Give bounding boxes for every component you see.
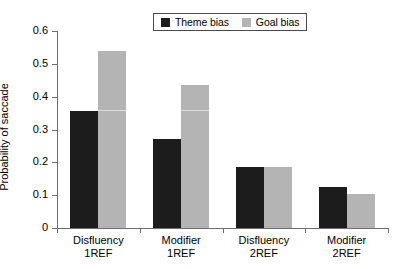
y-axis-tick-label: 0 — [42, 221, 48, 234]
y-axis-tick-mark — [52, 195, 57, 196]
y-axis-tick-mark — [52, 130, 57, 131]
y-axis-tick: 0.5 — [52, 64, 57, 65]
x-axis-category-label-line2: 2REF — [305, 247, 388, 260]
x-axis-category-label: Disfluency2REF — [223, 234, 306, 260]
bar-theme-bias — [153, 139, 181, 228]
bar-theme-bias — [236, 167, 264, 228]
bar-scan-artifact — [98, 110, 126, 111]
x-axis-tick-mark — [305, 228, 306, 233]
y-axis-tick-mark — [52, 162, 57, 163]
x-axis-category-label-line2: 1REF — [57, 247, 140, 260]
x-axis-category-label-line1: Modifier — [305, 234, 388, 247]
bar-goal-bias — [181, 85, 209, 228]
legend-swatch-goal-bias — [242, 18, 251, 27]
bar-goal-bias — [98, 51, 126, 228]
y-axis-tick-mark — [52, 31, 57, 32]
legend-entry-goal-bias: Goal bias — [242, 17, 299, 28]
x-axis-category-label-line2: 2REF — [223, 247, 306, 260]
plot-area: 00.10.20.30.40.50.6 Disfluency1REFModifi… — [57, 31, 388, 228]
x-axis-tick-mark — [223, 228, 224, 233]
bar-theme-bias — [319, 187, 347, 228]
y-axis-tick-mark — [52, 64, 57, 65]
x-axis-category-label-line1: Disfluency — [57, 234, 140, 247]
y-axis-tick-label: 0.4 — [33, 90, 48, 103]
y-axis-title: Probability of saccade — [0, 0, 11, 62]
y-axis-tick: 0.1 — [52, 195, 57, 196]
x-axis-category-label: Modifier2REF — [305, 234, 388, 260]
x-axis-category-label: Modifier1REF — [140, 234, 223, 260]
legend-label-goal-bias: Goal bias — [256, 17, 299, 28]
x-axis-category-label-line1: Modifier — [140, 234, 223, 247]
x-axis-category-label-line2: 1REF — [140, 247, 223, 260]
y-axis-tick-mark — [52, 97, 57, 98]
y-axis-line — [57, 31, 58, 229]
bar-theme-bias — [70, 111, 98, 228]
y-axis-tick-label: 0.5 — [33, 57, 48, 70]
legend-label-theme-bias: Theme bias — [175, 17, 229, 28]
x-axis-category-label: Disfluency1REF — [57, 234, 140, 260]
bar-chart-figure: Theme bias Goal bias Probability of sacc… — [0, 0, 408, 269]
y-axis-tick: 0.6 — [52, 31, 57, 32]
legend-entry-theme-bias: Theme bias — [161, 17, 229, 28]
chart-legend: Theme bias Goal bias — [153, 13, 307, 31]
y-axis-tick-label: 0.3 — [33, 123, 48, 136]
bar-scan-artifact — [181, 110, 209, 111]
y-axis-tick-label: 0.2 — [33, 155, 48, 168]
y-axis-tick: 0.4 — [52, 97, 57, 98]
y-axis-tick-label: 0.6 — [33, 24, 48, 37]
bar-goal-bias — [264, 167, 292, 228]
y-axis-tick: 0.3 — [52, 130, 57, 131]
bar-goal-bias — [347, 194, 375, 228]
legend-swatch-theme-bias — [161, 18, 170, 27]
x-axis-tick-mark — [388, 228, 389, 233]
y-axis-tick: 0.2 — [52, 162, 57, 163]
x-axis-category-label-line1: Disfluency — [223, 234, 306, 247]
x-axis-tick-mark — [140, 228, 141, 233]
y-axis-tick-label: 0.1 — [33, 188, 48, 201]
y-axis-title-text: Probability of saccade — [0, 62, 11, 212]
x-axis-tick-mark — [57, 228, 58, 233]
